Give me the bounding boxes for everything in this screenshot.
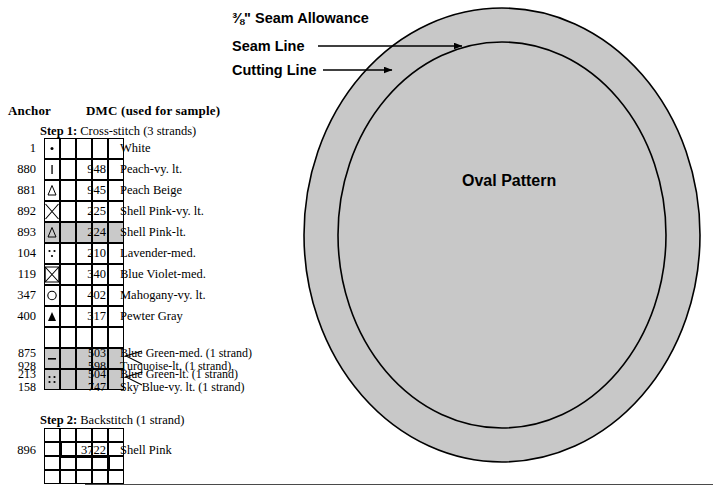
grid-cell xyxy=(60,327,76,348)
pattern-page: Anchor DMC (used for sample) Step 1: Cro… xyxy=(0,0,713,494)
grid-cell xyxy=(60,306,76,327)
anchor-number: 158 xyxy=(2,381,36,394)
color-name: Shell Pink-vy. lt. xyxy=(120,201,204,222)
grid-cell xyxy=(76,470,92,484)
dmc-number: 317 xyxy=(80,306,106,327)
anchor-number: 104 xyxy=(2,243,36,264)
dmc-number: 340 xyxy=(80,264,106,285)
step2-text: Backstitch (1 strand) xyxy=(80,413,184,427)
backstitch-stroke xyxy=(107,455,110,469)
grid-cell xyxy=(76,138,92,159)
color-name: Mahogany-vy. lt. xyxy=(120,285,206,306)
grid-cell xyxy=(92,138,108,159)
dmc-number: 225 xyxy=(80,201,106,222)
grid-cell xyxy=(108,327,124,348)
color-name: Shell Pink xyxy=(120,440,172,461)
legend-header-dmc: DMC (used for sample) xyxy=(86,103,220,119)
grid-cell xyxy=(60,138,76,159)
grid-cell xyxy=(60,243,76,264)
dmc-number: 948 xyxy=(80,159,106,180)
step1-heading: Step 1: Cross-stitch (3 strands) xyxy=(40,124,196,139)
dmc-number: 747 xyxy=(80,381,106,394)
grid-cell xyxy=(108,470,124,484)
dmc-number: 402 xyxy=(80,285,106,306)
grid-cell xyxy=(44,348,60,369)
grid-cell xyxy=(44,201,60,222)
oval-pattern-title: Oval Pattern xyxy=(462,172,556,190)
label-seam-line: Seam Line xyxy=(232,38,305,54)
grid-cell xyxy=(44,264,60,285)
dmc-number: 210 xyxy=(80,243,106,264)
grid-cell xyxy=(44,369,60,390)
color-name: Peach Beige xyxy=(120,180,182,201)
color-name: Sky Blue-vy. lt. (1 strand) xyxy=(120,381,245,394)
anchor-number: 119 xyxy=(2,264,36,285)
anchor-number: 347 xyxy=(2,285,36,306)
footer-divider xyxy=(85,484,713,485)
label-seam-allowance: ⅜" Seam Allowance xyxy=(232,10,369,26)
grid-cell xyxy=(44,243,60,264)
grid-cell xyxy=(44,456,60,470)
oval-svg xyxy=(300,0,713,470)
step2-prefix: Step 2: xyxy=(40,413,77,427)
grid-cell xyxy=(60,285,76,306)
dmc-number: 945 xyxy=(80,180,106,201)
grid-cell xyxy=(60,222,76,243)
grid-cell xyxy=(60,264,76,285)
grid-cell xyxy=(44,159,60,180)
anchor-number: 896 xyxy=(2,440,36,461)
oval-pattern-diagram xyxy=(300,0,713,470)
grid-cell xyxy=(44,138,60,159)
grid-cell xyxy=(60,201,76,222)
color-name: Pewter Gray xyxy=(120,306,183,327)
label-cutting-line: Cutting Line xyxy=(232,62,317,78)
color-name: Lavender-med. xyxy=(120,243,196,264)
grid-cell xyxy=(60,369,76,390)
step2-heading: Step 2: Backstitch (1 strand) xyxy=(40,413,184,428)
color-name: Blue Violet-med. xyxy=(120,264,206,285)
anchor-number: 400 xyxy=(2,306,36,327)
color-name: White xyxy=(120,138,151,159)
grid-cell xyxy=(92,327,108,348)
anchor-number: 881 xyxy=(2,180,36,201)
grid-cell xyxy=(44,327,60,348)
grid-cell xyxy=(76,327,92,348)
grid-cell xyxy=(44,470,60,484)
dmc-number: 3722 xyxy=(74,440,106,461)
anchor-number: 893 xyxy=(2,222,36,243)
grid-cell xyxy=(44,180,60,201)
color-name: Shell Pink-lt. xyxy=(120,222,186,243)
grid-cell xyxy=(44,285,60,306)
anchor-number: 880 xyxy=(2,159,36,180)
step1-text: Cross-stitch (3 strands) xyxy=(80,124,196,138)
grid-cell xyxy=(60,159,76,180)
grid-cell xyxy=(44,222,60,243)
anchor-number: 1 xyxy=(2,138,36,159)
grid-cell xyxy=(60,348,76,369)
grid-cell xyxy=(92,470,108,484)
seam-line-oval xyxy=(338,42,666,428)
legend-header-anchor: Anchor xyxy=(8,103,51,119)
grid-cell xyxy=(44,428,60,442)
grid-cell xyxy=(60,180,76,201)
grid-cell xyxy=(44,306,60,327)
grid-cell xyxy=(60,470,76,484)
anchor-number: 892 xyxy=(2,201,36,222)
dmc-number: 224 xyxy=(80,222,106,243)
color-name: Peach-vy. lt. xyxy=(120,159,182,180)
step1-prefix: Step 1: xyxy=(40,124,77,138)
